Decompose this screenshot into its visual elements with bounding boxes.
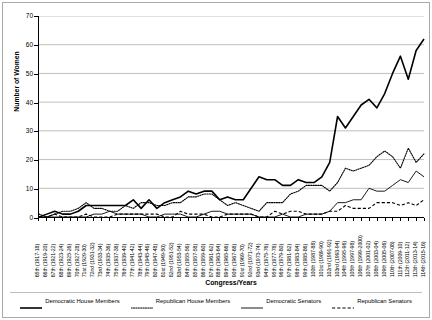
y-axis-tick-mark bbox=[34, 16, 38, 17]
series-line-1 bbox=[39, 148, 424, 217]
x-axis-tick-label: 93rd (1973-74) bbox=[255, 243, 260, 277]
x-axis-tick-label: 98th (1983-84) bbox=[295, 244, 300, 277]
y-axis-tick-mark bbox=[34, 189, 38, 190]
x-axis-tick-label: 112th (2011-12) bbox=[405, 242, 410, 277]
x-axis-tick-label: 80th (1947-48) bbox=[153, 244, 158, 277]
x-axis-tick-label: 82nd (1951-52) bbox=[169, 242, 174, 277]
x-axis-tick-label: 88th (1963-64) bbox=[216, 244, 221, 277]
y-axis-tick-label: 40 bbox=[26, 99, 33, 106]
x-axis-tick-label: 95th (1977-78) bbox=[271, 244, 276, 277]
x-axis-tick-label: 73rd (1933-34) bbox=[98, 243, 103, 277]
x-axis-tick-label: 100th (1987-88) bbox=[311, 241, 316, 277]
chart-figure: Number of Women 010203040506070 65th (19… bbox=[0, 0, 432, 320]
x-axis-tick-label: 83rd (1953-54) bbox=[177, 243, 182, 277]
x-axis-tick-label: 90th (1967-68) bbox=[232, 244, 237, 277]
x-axis-tick-label: 114th (2015-16) bbox=[421, 241, 426, 277]
y-axis-tick-mark bbox=[34, 74, 38, 75]
legend-entry: Democratic House Members bbox=[20, 298, 120, 306]
y-axis-tick-mark bbox=[34, 218, 38, 219]
x-axis-tick-label: 109th (2005-06) bbox=[382, 241, 387, 277]
x-axis-tick-label: 105th (1997-98) bbox=[350, 241, 355, 277]
x-axis-tick-labels: 65th (1917-18)66th (1919-20)67th (1921-2… bbox=[38, 221, 424, 277]
x-axis-tick-label: 89th (1965-66) bbox=[224, 244, 229, 277]
x-axis-tick-label: 65th (1917-18) bbox=[35, 244, 40, 277]
y-axis-tick-mark bbox=[34, 45, 38, 46]
y-axis-tick-label: 50 bbox=[26, 70, 33, 77]
y-axis-tick-mark bbox=[34, 131, 38, 132]
legend-label: Democratic Senators bbox=[266, 299, 321, 305]
x-axis-tick-label: 91st (1969-70) bbox=[240, 244, 245, 277]
x-axis-tick-label: 97th (1981-82) bbox=[287, 244, 292, 277]
x-axis-tick-label: 86th (1959-60) bbox=[200, 244, 205, 277]
x-axis-tick-label: 68th (1923-24) bbox=[59, 244, 64, 277]
x-axis-tick-label: 110th (2007-08) bbox=[389, 241, 394, 277]
x-axis-tick-label: 101st (1989-90) bbox=[318, 241, 323, 277]
x-axis-tick-label: 67th (1921-22) bbox=[51, 244, 56, 277]
y-axis-tick-label: 20 bbox=[26, 157, 33, 164]
x-axis-tick-label: 70th (1927-28) bbox=[74, 244, 79, 277]
solid-thin-line-swatch bbox=[241, 298, 263, 306]
x-axis-tick-label: 106th (1999-2000) bbox=[358, 235, 363, 277]
x-axis-tick-label: 104th (1995-96) bbox=[342, 241, 347, 277]
chart-legend: Democratic House MembersRepublican House… bbox=[10, 292, 422, 311]
x-axis-tick-label: 76th (1939-40) bbox=[122, 244, 127, 277]
x-axis-tick-label: 102nd (1991-92) bbox=[326, 239, 331, 277]
y-axis-tick-labels: 010203040506070 bbox=[0, 16, 33, 218]
series-lines bbox=[39, 16, 424, 217]
series-line-0 bbox=[39, 39, 424, 217]
dashed-line-swatch bbox=[332, 298, 354, 306]
y-axis-tick-label: 0 bbox=[29, 215, 33, 222]
x-axis-tick-label: 84th (1955-56) bbox=[185, 244, 190, 277]
x-axis-tick-label: 78th (1943-44) bbox=[137, 244, 142, 277]
series-line-2 bbox=[39, 171, 424, 217]
x-axis-tick-label: 71st (1929-30) bbox=[82, 244, 87, 277]
x-axis-tick-label: 113th (2013-14) bbox=[413, 241, 418, 277]
y-axis-tick-label: 30 bbox=[26, 128, 33, 135]
y-axis-tick-mark bbox=[34, 160, 38, 161]
x-axis-tick-label: 87th (1961-62) bbox=[208, 244, 213, 277]
legend-entry: Republican House Members bbox=[131, 298, 230, 306]
x-axis-tick-label: 66th (1919-20) bbox=[43, 244, 48, 277]
y-axis-tick-label: 60 bbox=[26, 42, 33, 49]
x-axis-tick-label: 81st (1949-50) bbox=[161, 244, 166, 277]
x-axis-tick-label: 69th (1925-26) bbox=[66, 244, 71, 277]
dotted-line-swatch bbox=[131, 298, 153, 306]
x-axis-tick-label: 77th (1941-42) bbox=[129, 244, 134, 277]
solid-thick-line-swatch bbox=[20, 298, 42, 306]
x-axis-tick-mark bbox=[424, 218, 425, 221]
legend-label: Republican Senators bbox=[357, 299, 412, 305]
legend-label: Democratic House Members bbox=[45, 299, 120, 305]
y-axis-tick-label: 70 bbox=[26, 13, 33, 20]
y-axis-tick-mark bbox=[34, 103, 38, 104]
legend-label: Republican House Members bbox=[156, 299, 230, 305]
x-axis-tick-label: 99th (1985-86) bbox=[303, 244, 308, 277]
y-axis-tick-label: 10 bbox=[26, 186, 33, 193]
x-axis-tick-label: 75th (1937-38) bbox=[114, 244, 119, 277]
x-axis-tick-label: 107th (2001-02) bbox=[366, 241, 371, 277]
x-axis-title: Congress/Years bbox=[38, 279, 424, 286]
x-axis-tick-label: 111th (2009-10) bbox=[397, 242, 402, 277]
x-axis-tick-label: 94th (1975-76) bbox=[263, 244, 268, 277]
x-axis-tick-label: 85th (1957-58) bbox=[192, 244, 197, 277]
x-axis-tick-label: 72nd (1931-32) bbox=[90, 242, 95, 277]
x-axis-tick-label: 96th (1979-80) bbox=[279, 244, 284, 277]
x-axis-tick-label: 103rd (1993-94) bbox=[334, 241, 339, 278]
x-axis-tick-label: 92nd (1971-72) bbox=[248, 242, 253, 277]
legend-entry: Republican Senators bbox=[332, 298, 412, 306]
plot-area bbox=[38, 16, 424, 218]
legend-entry: Democratic Senators bbox=[241, 298, 321, 306]
x-axis-tick-label: 79th (1945-46) bbox=[145, 244, 150, 277]
x-axis-tick-label: 108th (2003-04) bbox=[374, 241, 379, 277]
x-axis-tick-label: 74th (1935-36) bbox=[106, 244, 111, 277]
